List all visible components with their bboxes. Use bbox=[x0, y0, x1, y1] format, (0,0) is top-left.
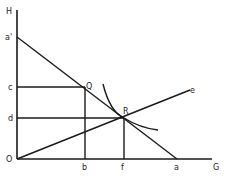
label-R: R bbox=[123, 107, 129, 116]
label-H: H bbox=[6, 7, 12, 16]
label-O: O bbox=[6, 155, 12, 164]
label-a-prime: a' bbox=[5, 33, 12, 42]
label-a: a bbox=[174, 163, 179, 172]
label-e: e bbox=[190, 86, 195, 95]
label-G: G bbox=[213, 163, 219, 172]
budget-line-diagram: H a' c d O b f a G Q R e bbox=[0, 0, 225, 178]
label-c: c bbox=[8, 83, 12, 92]
label-Q: Q bbox=[86, 82, 92, 91]
label-f: f bbox=[121, 163, 124, 172]
label-b: b bbox=[82, 163, 87, 172]
label-d: d bbox=[8, 114, 13, 123]
budget-line-a-prime-a bbox=[17, 37, 177, 159]
